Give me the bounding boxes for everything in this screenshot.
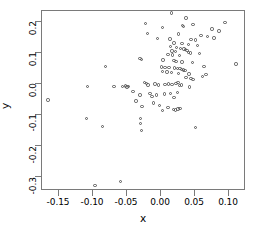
data-point	[146, 32, 149, 35]
y-tick-label: -0.1	[28, 114, 38, 132]
data-point	[199, 34, 202, 37]
data-point	[191, 61, 194, 64]
data-point	[187, 43, 190, 46]
data-point	[161, 109, 164, 112]
data-point	[170, 83, 173, 86]
data-points-layer	[42, 11, 244, 189]
x-tick-label: 0.00	[150, 197, 170, 207]
data-point	[198, 52, 201, 55]
data-point	[157, 83, 160, 86]
y-tick-label: -0.2	[28, 146, 38, 164]
data-point	[169, 92, 172, 95]
data-point	[191, 23, 194, 26]
data-point	[212, 36, 215, 39]
data-point	[139, 117, 142, 120]
data-point	[119, 180, 122, 183]
data-point	[166, 106, 169, 109]
x-tick-mark	[58, 190, 59, 196]
y-tick-label: 0.2	[28, 21, 38, 35]
data-point	[191, 78, 194, 81]
plot-frame	[41, 10, 245, 190]
x-axis-title: x	[140, 212, 146, 224]
data-point	[172, 41, 175, 44]
data-point	[163, 92, 166, 95]
data-point	[138, 93, 141, 96]
x-tick-mark	[92, 190, 93, 196]
data-point	[204, 73, 207, 76]
y-tick-label: 0.1	[28, 52, 38, 66]
data-point	[93, 184, 96, 187]
data-point	[223, 21, 226, 24]
data-point	[169, 45, 172, 48]
data-point	[202, 65, 205, 68]
data-point	[152, 101, 155, 104]
data-point	[85, 117, 88, 120]
data-point	[140, 58, 143, 61]
data-point	[166, 53, 169, 56]
y-axis-title: y	[0, 103, 11, 109]
data-point	[194, 126, 197, 129]
x-tick-label: 0.05	[184, 197, 204, 207]
data-point	[187, 72, 190, 75]
data-point	[180, 42, 183, 45]
data-point	[112, 85, 115, 88]
data-point	[155, 93, 158, 96]
y-tick-label: 0.0	[28, 83, 38, 97]
data-point	[86, 85, 89, 88]
data-point	[188, 85, 191, 88]
data-point	[139, 122, 142, 125]
data-point	[170, 71, 173, 74]
data-point	[158, 104, 161, 107]
y-tick-label: -0.3	[28, 177, 38, 195]
x-tick-label: -0.15	[47, 197, 70, 207]
data-point	[140, 129, 143, 132]
data-point	[178, 107, 181, 110]
data-point	[201, 75, 204, 78]
data-point	[206, 35, 209, 38]
data-point	[217, 29, 220, 32]
data-point	[184, 16, 187, 19]
data-point	[194, 38, 197, 41]
data-point	[140, 105, 143, 108]
data-point	[131, 90, 134, 93]
x-tick-label: -0.10	[81, 197, 104, 207]
data-point	[161, 70, 164, 73]
data-point	[183, 69, 186, 72]
data-point	[189, 38, 192, 41]
scatter-plot-figure: y x 0.20.10.0-0.1-0.2-0.3-0.15-0.10-0.05…	[0, 0, 257, 234]
data-point	[46, 98, 49, 101]
data-point	[182, 25, 185, 28]
data-point	[101, 125, 104, 128]
data-point	[234, 62, 237, 65]
data-point	[176, 91, 179, 94]
data-point	[163, 66, 166, 69]
data-point	[171, 53, 174, 56]
data-point	[174, 50, 177, 53]
data-point	[161, 26, 164, 29]
data-point	[180, 60, 183, 63]
data-point	[127, 85, 130, 88]
data-point	[174, 60, 177, 63]
data-point	[156, 37, 159, 40]
data-point	[146, 83, 149, 86]
x-tick-mark	[228, 190, 229, 196]
data-point	[170, 11, 173, 14]
data-point	[165, 70, 168, 73]
x-tick-mark	[160, 190, 161, 196]
data-point	[177, 72, 180, 75]
x-tick-label: -0.05	[115, 197, 138, 207]
data-point	[177, 32, 180, 35]
x-tick-label: 0.10	[218, 197, 238, 207]
data-point	[104, 65, 107, 68]
data-point	[167, 66, 170, 69]
data-point	[178, 54, 181, 57]
data-point	[175, 46, 178, 49]
data-point	[144, 22, 147, 25]
data-point	[150, 95, 153, 98]
data-point	[210, 27, 213, 30]
data-point	[134, 99, 137, 102]
data-point	[196, 44, 199, 47]
data-point	[189, 51, 192, 54]
x-tick-mark	[126, 190, 127, 196]
data-point	[180, 83, 183, 86]
